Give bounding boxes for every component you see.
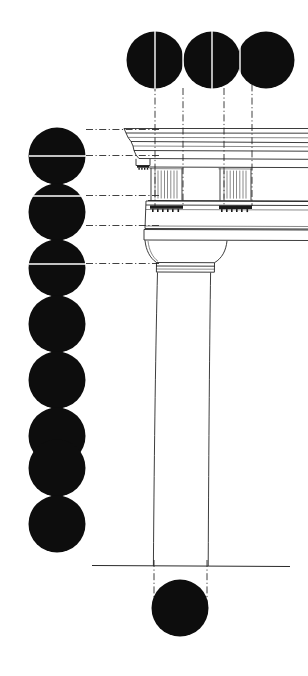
module-disc-left-5: [29, 352, 86, 409]
doric-frieze: [148, 167, 308, 201]
regula-guttae-2: [219, 206, 252, 213]
regula-guttae-1: [150, 205, 183, 212]
ground-line: [92, 566, 290, 567]
module-disc-left-8: [29, 496, 86, 553]
module-disc-left-3: [29, 240, 86, 297]
module-disc-top-3: [238, 32, 295, 89]
column-capital: [144, 230, 308, 273]
module-disc-left-4: [29, 296, 86, 353]
horizontal-module-row: [127, 31, 295, 89]
figure-canvas: [0, 0, 308, 676]
base-module-circle: [152, 580, 209, 637]
cornice: [124, 129, 308, 170]
horizontal-guide-lines: [86, 130, 160, 264]
architrave: [145, 201, 308, 229]
architrave-lower-rule: [146, 226, 308, 227]
module-disc-left-2: [29, 184, 86, 241]
column-shaft: [153, 273, 210, 567]
doric-order-diagram: [0, 0, 308, 676]
doric-order-drawing: [92, 129, 308, 567]
guide-lines: [86, 58, 252, 612]
vertical-module-column: [29, 128, 87, 553]
module-disc-left-7: [29, 440, 86, 497]
module-disc-base-1: [152, 580, 209, 637]
